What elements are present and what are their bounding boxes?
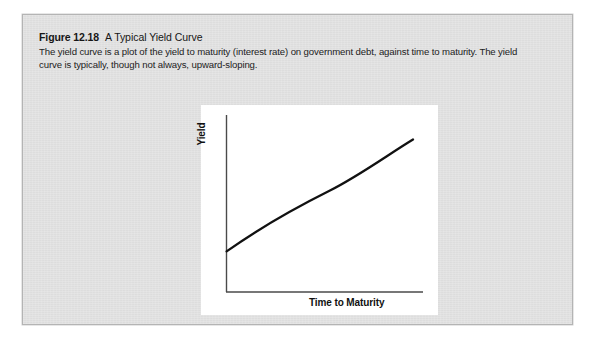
figure-description: The yield curve is a plot of the yield t… [39, 46, 539, 71]
figure-number: Figure 12.18 [39, 31, 99, 43]
y-axis-label: Yield [195, 111, 209, 157]
figure-name: A Typical Yield Curve [105, 31, 202, 43]
figure-caption-block: Figure 12.18A Typical Yield Curve The yi… [39, 30, 550, 71]
chart-panel: Yield Time to Maturity [201, 105, 438, 315]
figure-title: Figure 12.18A Typical Yield Curve [39, 30, 550, 44]
yield-curve-plot [201, 105, 438, 315]
yield-curve-line [227, 140, 413, 252]
x-axis-label: Time to Maturity [309, 297, 384, 308]
figure-card: Figure 12.18A Typical Yield Curve The yi… [22, 14, 573, 325]
